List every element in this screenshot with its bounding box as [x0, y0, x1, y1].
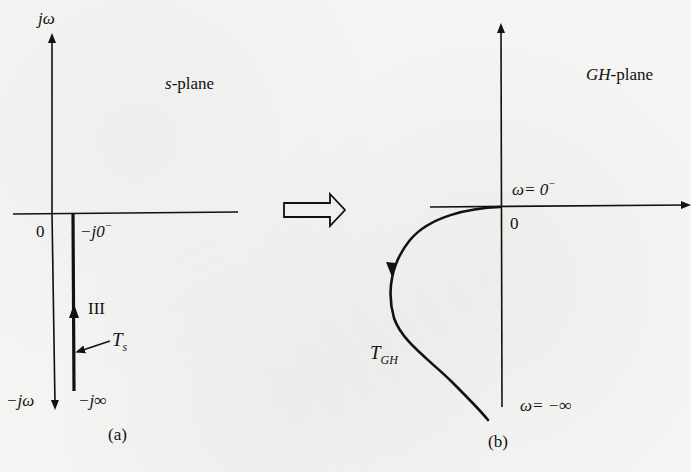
neg-jw-axis-label: −jω: [6, 392, 34, 409]
ts-label: Ts: [112, 330, 127, 349]
mapping-arrow-icon: [284, 194, 345, 226]
omega-zero-minus-main: ω= 0: [512, 180, 548, 199]
ts-label-sub: s: [123, 340, 128, 354]
contour-start-label: −j0−: [80, 223, 112, 240]
s-plane-origin-label: 0: [36, 223, 45, 240]
s-plane-title-italic: s: [165, 74, 172, 93]
omega-neg-inf-label: ω= −∞: [520, 397, 571, 414]
omega-zero-minus-label: ω= 0−: [512, 181, 556, 198]
omega-zero-minus-sup: −: [548, 177, 555, 189]
tgh-label-main: T: [370, 342, 381, 363]
tgh-label: TGH: [370, 343, 398, 362]
contour-direction-arrow-up: [69, 304, 79, 318]
s-plane-jw-axis-down: [52, 213, 55, 405]
gh-plane-title-rest: -plane: [611, 65, 653, 84]
s-plane-title-rest: -plane: [172, 74, 214, 93]
ts-label-main: T: [112, 329, 123, 350]
gh-plane-title-italic: GH: [586, 65, 611, 84]
contour-start-label-sup: −: [105, 219, 112, 231]
caption-b: (b): [488, 433, 508, 450]
s-plane-title: s-plane: [165, 75, 214, 92]
gh-plane-panel: [386, 28, 686, 420]
jw-axis-label: jω: [38, 10, 55, 27]
tgh-label-sub: GH: [381, 353, 398, 367]
gh-plane-title: GH-plane: [586, 66, 653, 83]
gh-plane-origin-label: 0: [510, 215, 519, 232]
ts-pointer-arrow: [80, 341, 110, 351]
contour-end-label: −j∞: [78, 392, 106, 409]
segment-label: III: [88, 300, 105, 317]
caption-a: (a): [108, 426, 127, 443]
contour-tgh: [391, 207, 500, 420]
gh-plane-real-axis: [430, 205, 686, 207]
gh-plane-imag-axis: [501, 28, 502, 407]
s-plane-real-axis: [13, 212, 238, 214]
contour-ts: [73, 213, 74, 391]
contour-start-label-main: −j0: [80, 222, 105, 241]
